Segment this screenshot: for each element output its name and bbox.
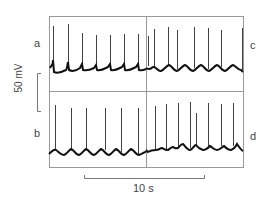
panel-label-d: d <box>250 131 256 142</box>
trace-panel-d <box>146 102 243 152</box>
panel-label-c: c <box>250 40 256 51</box>
panel-frame <box>50 17 244 168</box>
panel-label-b: b <box>34 128 40 139</box>
figure-canvas <box>0 0 269 203</box>
time-scale-label: 10 s <box>133 183 154 194</box>
time-scale-bar <box>85 175 205 179</box>
voltage-scale-bar <box>38 74 42 112</box>
trace-panel-b <box>49 105 146 155</box>
trace-panel-c <box>146 27 243 72</box>
trace-panel-a <box>50 24 149 73</box>
panel-label-a: a <box>34 38 40 49</box>
voltage-scale-label: 50 mV <box>14 58 24 98</box>
